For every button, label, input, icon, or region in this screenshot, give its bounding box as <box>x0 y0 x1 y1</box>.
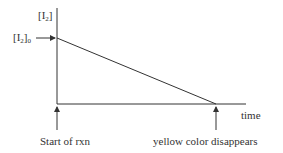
reaction-progress-diagram <box>0 0 283 153</box>
start-annotation: Start of rxn <box>40 136 90 147</box>
concentration-line <box>57 38 216 104</box>
initial-concentration-label: [I2]0 <box>13 32 31 43</box>
y-axis-label: [I2] <box>38 10 53 21</box>
end-annotation: yellow color disappears <box>153 136 257 147</box>
x-axis-label: time <box>241 110 261 121</box>
